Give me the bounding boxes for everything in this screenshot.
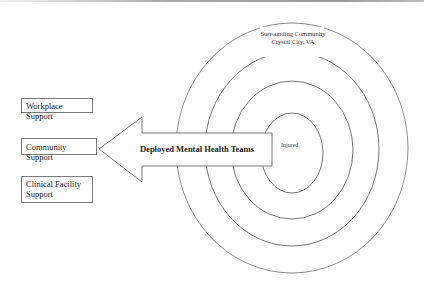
clinical-facility-support-box: Clinical Facility Support [21, 176, 93, 203]
outer-label-line1: Surrounding Community [260, 30, 326, 37]
clinical-facility-label-line1: Clinical Facility [26, 179, 88, 189]
clinical-facility-label-line2: Support [26, 189, 88, 199]
arrow-label: Deployed Mental Health Teams [140, 144, 255, 154]
center-label-injured: Injured [281, 142, 298, 148]
outer-label-line2: Crystal City, VA [272, 38, 315, 45]
workplace-support-box: Workplace Support [21, 98, 93, 113]
community-support-box: Community Support [21, 138, 97, 155]
